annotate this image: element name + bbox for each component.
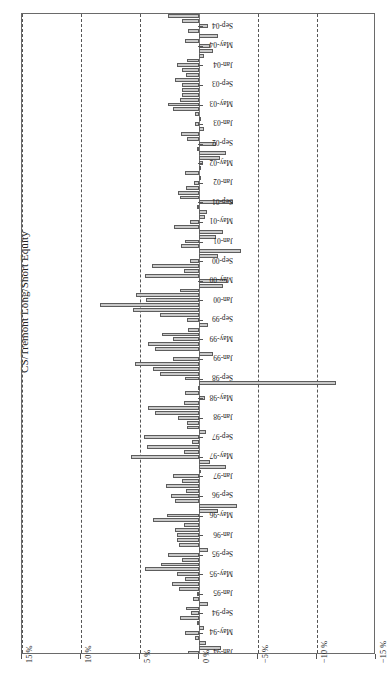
value-label: −10 % — [320, 641, 329, 663]
bar — [179, 543, 199, 547]
bar — [178, 416, 199, 420]
value-label: −15 % — [379, 641, 388, 663]
bar — [177, 533, 199, 537]
category-tick — [198, 594, 203, 595]
category-label: Sep-04 — [212, 21, 233, 30]
bar — [181, 244, 199, 248]
category-label: Jan-96 — [213, 530, 233, 539]
bar — [100, 303, 199, 307]
bar — [177, 538, 199, 542]
bar — [177, 572, 199, 576]
bar — [145, 274, 199, 278]
bar — [175, 78, 199, 82]
chart-root: CS/Tremont Long/Short Equity Jan-94May-9… — [0, 0, 390, 699]
gridline — [140, 14, 141, 653]
category-tick — [198, 242, 203, 243]
category-tick — [198, 222, 203, 223]
value-tick — [316, 654, 317, 659]
bar — [153, 367, 199, 371]
category-label: Sep-95 — [212, 549, 233, 558]
bar — [172, 582, 199, 586]
zero-line — [199, 14, 200, 653]
bar — [185, 391, 199, 395]
bar — [182, 19, 199, 23]
category-tick — [198, 300, 203, 301]
bar — [187, 137, 199, 141]
plot-area: Jan-94May-94Sep-94Jan-95May-95Sep-95Jan-… — [21, 13, 375, 654]
bar — [173, 107, 199, 111]
category-tick — [198, 359, 203, 360]
bar — [186, 489, 199, 493]
bar — [185, 240, 199, 244]
bar — [135, 362, 199, 366]
category-tick — [198, 457, 203, 458]
gridline — [81, 14, 82, 653]
value-tick — [198, 654, 199, 659]
category-tick — [198, 516, 203, 517]
bar — [199, 548, 208, 552]
category-tick — [198, 85, 203, 86]
category-tick — [198, 281, 203, 282]
bar — [133, 308, 199, 312]
category-tick — [198, 555, 203, 556]
bar — [180, 616, 199, 620]
bar — [184, 269, 199, 273]
category-label: Sep-94 — [212, 608, 233, 617]
bar — [199, 602, 208, 606]
value-axis: 15 %10 %5 %0 %−5 %−10 %−15 % — [21, 654, 375, 699]
bar — [182, 93, 199, 97]
category-label: May-01 — [210, 216, 233, 225]
value-tick — [139, 654, 140, 659]
bar — [192, 440, 199, 444]
category-tick — [198, 46, 203, 47]
bar — [168, 14, 199, 18]
bar — [195, 112, 199, 116]
category-label: Sep-96 — [212, 490, 233, 499]
category-label: Jan-95 — [213, 588, 233, 597]
category-label: Jan-02 — [213, 177, 233, 186]
bar — [198, 386, 200, 390]
bar — [161, 563, 199, 567]
category-tick — [198, 437, 203, 438]
bar — [185, 171, 199, 175]
value-tick — [80, 654, 81, 659]
category-tick — [198, 496, 203, 497]
category-label: Jan-04 — [213, 60, 233, 69]
bar — [179, 587, 199, 591]
category-label: Jan-97 — [213, 471, 233, 480]
bar — [199, 381, 336, 385]
bar — [173, 337, 199, 341]
bar — [199, 34, 218, 38]
category-label: Jan-94 — [213, 647, 233, 654]
category-tick — [198, 476, 203, 477]
bar — [199, 465, 226, 469]
bar — [199, 54, 204, 58]
category-tick — [198, 105, 203, 106]
category-label: Jan-03 — [213, 118, 233, 127]
category-tick — [198, 163, 203, 164]
bar — [160, 372, 199, 376]
category-tick — [198, 202, 203, 203]
category-tick — [198, 183, 203, 184]
bar — [160, 313, 199, 317]
bar — [197, 205, 199, 209]
bar — [188, 328, 199, 332]
bar — [131, 455, 199, 459]
bar — [199, 166, 201, 170]
value-label: 10 % — [84, 646, 93, 663]
category-tick — [198, 124, 203, 125]
bar — [145, 567, 199, 571]
category-label: Sep-98 — [212, 373, 233, 382]
category-label: May-97 — [210, 451, 233, 460]
bar — [199, 127, 204, 131]
bar — [168, 103, 199, 107]
bar — [184, 401, 199, 405]
category-label: Sep-03 — [212, 79, 233, 88]
category-label: May-99 — [210, 334, 233, 343]
bar — [167, 514, 199, 518]
category-tick — [198, 144, 203, 145]
bar — [182, 83, 199, 87]
category-label: May-04 — [210, 40, 233, 49]
category-tick — [198, 574, 203, 575]
category-label: Jan-01 — [213, 236, 233, 245]
